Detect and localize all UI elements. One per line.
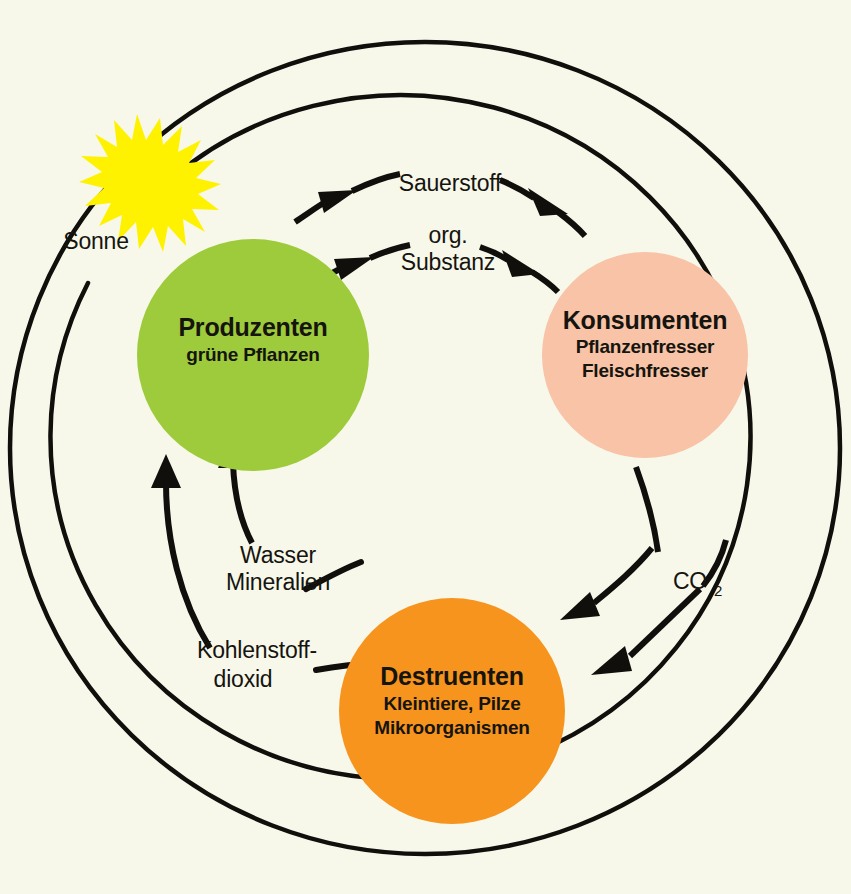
co2-text: CO xyxy=(673,568,707,594)
node-konsumenten[interactable]: Konsumenten Pflanzenfresser Fleischfress… xyxy=(542,252,748,458)
destruenten-subtitle-1: Kleintiere, Pilze xyxy=(383,693,520,714)
flow-label-kohlenstoffdioxid-line1: Kohlenstoff- xyxy=(197,637,317,663)
produzenten-subtitle-1: grüne Pflanzen xyxy=(186,344,319,365)
konsumenten-subtitle-1: Pflanzenfresser xyxy=(576,336,715,357)
destruenten-title: Destruenten xyxy=(380,662,524,690)
node-destruenten[interactable]: Destruenten Kleintiere, Pilze Mikroorgan… xyxy=(339,598,565,824)
ecosystem-cycle-diagram: Sonne Produzenten grüne Pflanzen Konsume… xyxy=(0,0,851,894)
flow-label-kohlenstoffdioxid-line2: dioxid xyxy=(214,666,273,692)
flow-label-substanz: Substanz xyxy=(401,249,495,275)
flow-label-mineralien: Mineralien xyxy=(226,569,330,595)
flow-label-sauerstoff: Sauerstoff xyxy=(399,170,502,196)
konsumenten-subtitle-2: Fleischfresser xyxy=(582,360,709,381)
node-produzenten[interactable]: Produzenten grüne Pflanzen xyxy=(137,239,369,471)
co2-subscript: 2 xyxy=(714,582,722,599)
destruenten-subtitle-2: Mikroorganismen xyxy=(374,717,529,738)
flow-label-wasser: Wasser xyxy=(240,542,316,568)
sun-label: Sonne xyxy=(63,228,129,254)
flow-label-org: org. xyxy=(429,222,468,248)
produzenten-title: Produzenten xyxy=(178,313,327,341)
konsumenten-title: Konsumenten xyxy=(563,306,727,334)
